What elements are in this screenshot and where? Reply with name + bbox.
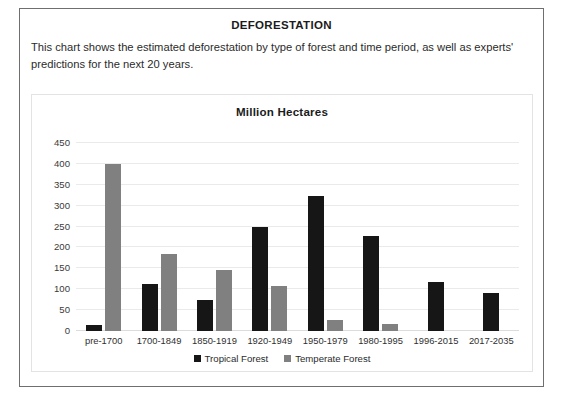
y-axis-tick-label: 300 — [54, 199, 70, 210]
bar-groups — [76, 143, 519, 331]
chart-card: Million Hectares 05010015020025030035040… — [31, 94, 533, 372]
bar[interactable] — [271, 286, 287, 331]
x-axis-tick-label: 1920-1949 — [242, 335, 297, 346]
bar-group — [353, 143, 408, 331]
bar[interactable] — [327, 320, 343, 331]
bar-group — [76, 143, 131, 331]
y-axis-tick-label: 450 — [54, 137, 70, 148]
bar[interactable] — [382, 324, 398, 331]
chart-title: Million Hectares — [32, 105, 532, 118]
bar-group — [187, 143, 242, 331]
x-axis-tick-label: 1950-1979 — [298, 335, 353, 346]
legend-swatch-icon — [194, 355, 201, 362]
x-axis-tick-label: 1980-1995 — [353, 335, 408, 346]
x-axis-labels: pre-17001700-18491850-19191920-19491950-… — [76, 335, 519, 346]
bar[interactable] — [197, 300, 213, 331]
bar[interactable] — [308, 196, 324, 331]
x-axis-tick-label: 2017-2035 — [464, 335, 519, 346]
legend-swatch-icon — [284, 355, 291, 362]
plot-area: 050100150200250300350400450 — [76, 143, 519, 331]
bar[interactable] — [86, 325, 102, 331]
x-axis-tick-label: 1996-2015 — [408, 335, 463, 346]
bar[interactable] — [483, 293, 499, 331]
bar[interactable] — [216, 270, 232, 331]
y-axis-tick-label: 50 — [59, 304, 70, 315]
x-axis-tick-label: 1700-1849 — [131, 335, 186, 346]
x-axis-tick-label: 1850-1919 — [187, 335, 242, 346]
bar-group — [131, 143, 186, 331]
y-axis-tick-label: 0 — [65, 325, 70, 336]
chart-legend: Tropical ForestTemperate Forest — [32, 353, 532, 364]
y-axis-tick-label: 250 — [54, 220, 70, 231]
x-axis-tick-label: pre-1700 — [76, 335, 131, 346]
y-axis-tick-label: 150 — [54, 262, 70, 273]
screenshot-root: DEFORESTATION This chart shows the estim… — [0, 0, 564, 406]
y-axis-tick-label: 100 — [54, 283, 70, 294]
legend-item[interactable]: Tropical Forest — [194, 353, 269, 364]
bar[interactable] — [428, 282, 444, 331]
bar[interactable] — [142, 284, 158, 331]
bar[interactable] — [252, 227, 268, 331]
bar-group — [464, 143, 519, 331]
page-title: DEFORESTATION — [20, 19, 543, 31]
bar-group — [242, 143, 297, 331]
y-axis-tick-label: 400 — [54, 157, 70, 168]
y-axis-tick-label: 200 — [54, 241, 70, 252]
bar[interactable] — [161, 254, 177, 331]
bar[interactable] — [105, 164, 121, 331]
legend-label: Tropical Forest — [205, 353, 269, 364]
bar-group — [408, 143, 463, 331]
bar-group — [298, 143, 353, 331]
bar[interactable] — [363, 236, 379, 331]
legend-item[interactable]: Temperate Forest — [284, 353, 370, 364]
document-frame: DEFORESTATION This chart shows the estim… — [19, 8, 544, 387]
legend-label: Temperate Forest — [295, 353, 370, 364]
y-axis-tick-label: 350 — [54, 178, 70, 189]
document-description: This chart shows the estimated deforesta… — [31, 39, 531, 73]
